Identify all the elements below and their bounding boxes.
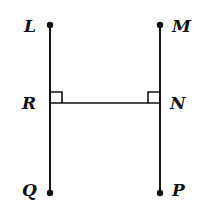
right-angle-mark-n [148, 92, 160, 103]
label-r: R [21, 93, 36, 113]
label-l: L [23, 16, 36, 36]
point-l-dot [47, 22, 53, 28]
point-p-dot [157, 190, 163, 196]
point-m-dot [157, 22, 163, 28]
label-p: P [171, 180, 186, 200]
label-m: M [171, 16, 192, 36]
label-n: N [169, 93, 187, 113]
point-q-dot [47, 190, 53, 196]
right-angle-mark-r [50, 92, 62, 103]
geometry-diagram: L M R N Q P [0, 0, 202, 207]
label-q: Q [22, 180, 37, 200]
